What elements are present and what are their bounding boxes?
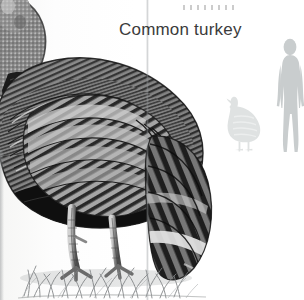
book-page: Common turkey xyxy=(0,0,304,300)
spur xyxy=(74,236,86,242)
page-gutter-shadow xyxy=(146,0,149,300)
human-silhouette xyxy=(270,38,304,154)
scan-smudge xyxy=(183,5,239,10)
turkey-silhouette xyxy=(222,94,266,152)
page-left-edge-shadow xyxy=(0,150,4,300)
grass-tufts xyxy=(18,252,208,300)
size-comparison-silhouettes xyxy=(214,30,304,155)
